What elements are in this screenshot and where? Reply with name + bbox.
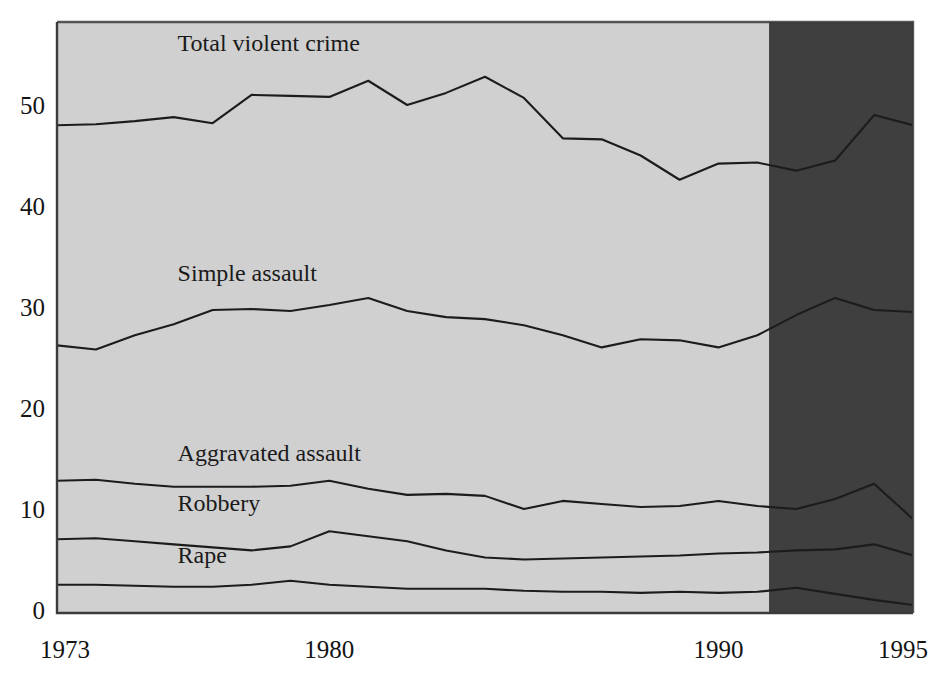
- series-label-simple-assault: Simple assault: [178, 260, 318, 286]
- x-axis-tick-labels: 1973198019901995: [40, 636, 928, 663]
- series-label-total-violent-crime: Total violent crime: [178, 30, 360, 56]
- x-tick-1980: 1980: [304, 636, 354, 663]
- y-tick-40: 40: [20, 193, 45, 220]
- y-tick-50: 50: [20, 92, 45, 119]
- x-tick-1973: 1973: [40, 636, 90, 663]
- series-label-aggravated-assault: Aggravated assault: [178, 440, 362, 466]
- y-tick-30: 30: [20, 294, 45, 321]
- series-label-robbery: Robbery: [178, 490, 261, 516]
- x-tick-1990: 1990: [693, 636, 743, 663]
- x-tick-1995: 1995: [878, 636, 928, 663]
- series-label-rape: Rape: [178, 542, 227, 568]
- line-chart: 01020304050 1973198019901995 Total viole…: [0, 0, 945, 684]
- chart-figure: 01020304050 1973198019901995 Total viole…: [0, 0, 945, 684]
- y-tick-10: 10: [20, 496, 45, 523]
- y-tick-20: 20: [20, 395, 45, 422]
- y-axis-tick-labels: 01020304050: [20, 92, 45, 624]
- y-tick-0: 0: [33, 597, 46, 624]
